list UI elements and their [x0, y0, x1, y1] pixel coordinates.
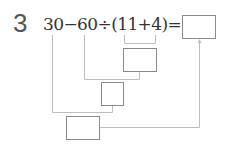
step2-box[interactable]: [101, 82, 124, 106]
arrowhead-icon: [198, 39, 202, 43]
answer-box[interactable]: [182, 15, 216, 39]
step1-box[interactable]: [123, 48, 157, 72]
bracket-11-plus-4: [125, 35, 156, 44]
step3-box[interactable]: [66, 116, 100, 140]
